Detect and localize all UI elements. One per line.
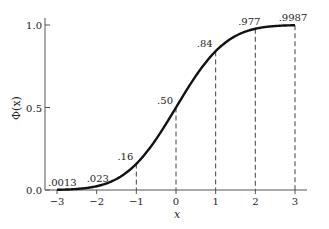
cdf-chart: .0013.023.16.50.84.977.9987 −3−2−101230.… [0,0,329,229]
y-tick-label: 0.0 [26,185,42,196]
point-label: .16 [117,151,133,162]
x-tick-label: 1 [212,196,218,207]
x-axis-label: x [174,208,181,221]
x-tick-label: −2 [89,196,104,207]
point-labels: .0013.023.16.50.84.977.9987 [48,12,307,188]
x-tick-label: 3 [292,196,298,207]
x-tick-label: 0 [173,196,179,207]
x-tick-label: 2 [252,196,258,207]
point-label: .023 [87,173,109,184]
point-label: .977 [238,16,260,27]
y-tick-label: 1.0 [26,20,42,31]
point-label: .0013 [48,177,77,188]
point-label: .84 [197,38,213,49]
x-tick-label: −1 [129,196,144,207]
y-tick-label: 0.5 [26,103,42,114]
x-tick-label: −3 [50,196,65,207]
point-label: .50 [157,95,173,106]
y-axis-label: Φ(x) [10,96,23,120]
point-label: .9987 [279,12,308,23]
